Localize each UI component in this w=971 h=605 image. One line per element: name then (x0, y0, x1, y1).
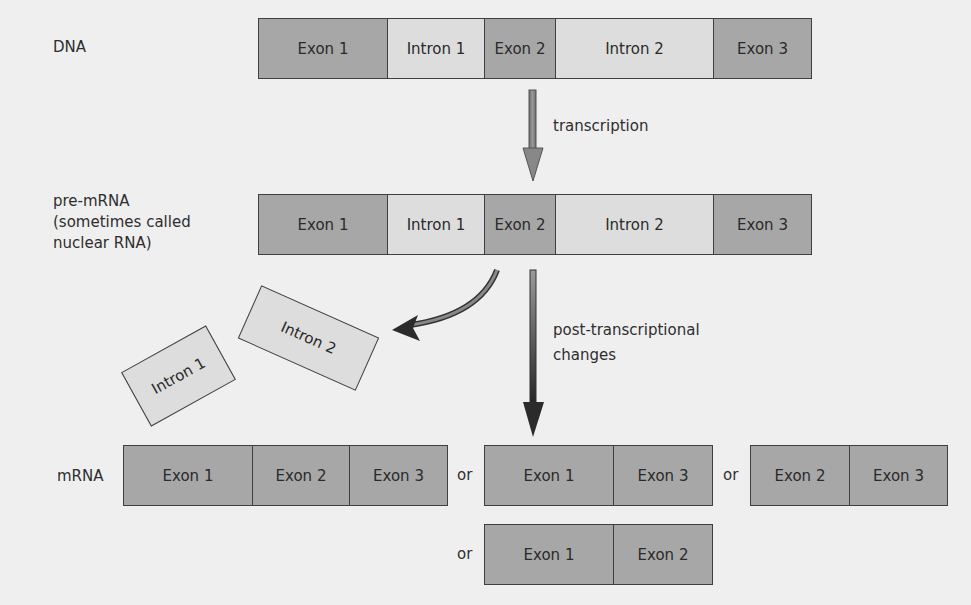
or-separator-3: or (457, 545, 472, 563)
mrna-variant-2: Exon 1 Exon 3 (484, 445, 713, 506)
or-separator-2: or (723, 466, 738, 484)
or-separator-1: or (457, 466, 472, 484)
mrna-v4-exon-2: Exon 2 (614, 525, 712, 584)
mrna-v2-exon-1: Exon 1 (485, 446, 614, 505)
mrna-v3-exon-2: Exon 2 (751, 446, 850, 505)
mrna-v3-exon-3: Exon 3 (850, 446, 947, 505)
arrows-layer (0, 0, 971, 605)
mrna-variant-3: Exon 2 Exon 3 (750, 445, 948, 506)
mrna-v2-exon-3: Exon 3 (614, 446, 712, 505)
post-transcriptional-arrow-icon (523, 270, 544, 437)
mrna-v1-exon-1: Exon 1 (124, 446, 253, 505)
mrna-v1-exon-3: Exon 3 (350, 446, 447, 505)
intron-removal-arrow-icon (392, 270, 497, 341)
mrna-v4-exon-1: Exon 1 (485, 525, 614, 584)
mrna-v1-exon-2: Exon 2 (253, 446, 350, 505)
mrna-variant-1: Exon 1 Exon 2 Exon 3 (123, 445, 448, 506)
transcription-arrow-icon (523, 90, 543, 181)
mrna-variant-4: Exon 1 Exon 2 (484, 524, 713, 585)
mrna-label: mRNA (57, 466, 104, 487)
